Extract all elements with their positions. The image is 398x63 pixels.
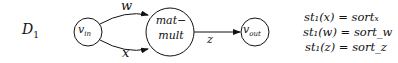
edge-w [100,14,148,24]
equation-w: st₁(w) = sort_w [303,25,392,39]
edge-x-label: x [122,45,129,60]
equation-z: st₁(z) = sort_z [305,40,387,54]
node-v-out-label: vout [243,23,261,38]
equation-x: st₁(x) = sortₓ [304,10,379,24]
node-v-in-label: vin [78,23,91,38]
node-mat-mult-label: mat− mult [152,13,190,43]
edge-w-label: w [121,0,132,13]
edge-z-label: z [207,33,213,46]
